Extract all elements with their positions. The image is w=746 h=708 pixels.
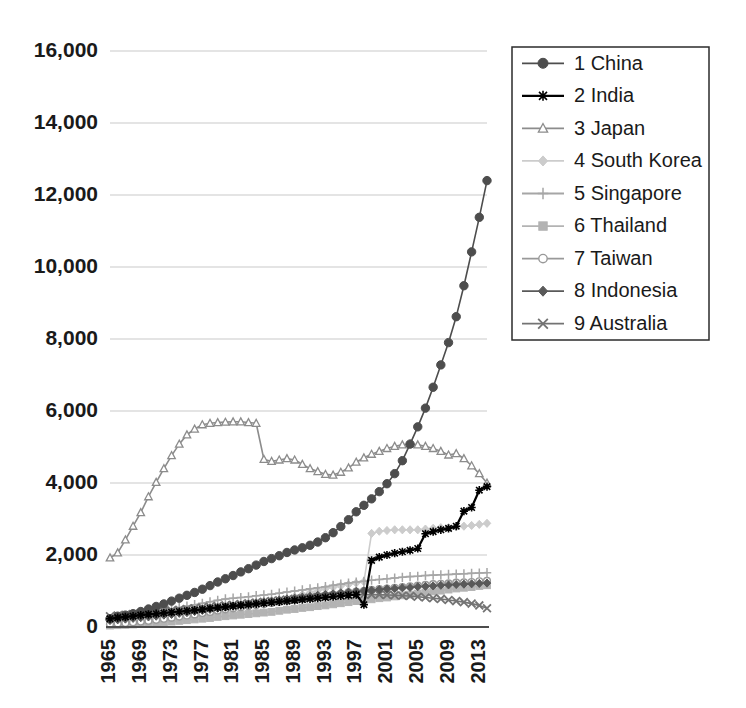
data-point-marker [452, 522, 460, 530]
data-point-marker [321, 534, 329, 542]
data-point-marker [160, 600, 168, 608]
data-point-marker [375, 575, 384, 584]
data-point-marker [314, 538, 322, 546]
data-point-marker [437, 526, 445, 534]
data-point-marker [406, 440, 414, 448]
data-point-marker [460, 455, 467, 462]
data-point-marker [214, 614, 221, 621]
data-point-marker [383, 480, 391, 488]
data-point-marker [152, 478, 159, 485]
data-point-marker [167, 608, 175, 616]
data-point-marker [414, 423, 422, 431]
data-point-marker [406, 526, 413, 534]
data-point-marker [437, 361, 445, 369]
data-point-marker [283, 455, 290, 462]
chart-legend: 1 China2 India3 Japan4 South Korea5 Sing… [512, 47, 709, 340]
x-axis-tick-label: 1973 [159, 639, 181, 684]
data-point-marker [344, 516, 352, 524]
data-point-marker [283, 597, 291, 605]
data-point-marker [175, 594, 183, 602]
data-point-marker [391, 526, 398, 534]
y-axis-tick-label: 10,000 [34, 254, 98, 277]
data-point-marker [352, 591, 360, 599]
data-point-marker [291, 596, 299, 604]
data-point-marker [368, 529, 375, 537]
data-point-marker [539, 254, 547, 262]
series-1-china [106, 176, 491, 623]
data-point-marker [214, 578, 222, 586]
data-point-marker [421, 571, 430, 580]
data-point-marker [160, 609, 168, 617]
data-point-marker [267, 554, 275, 562]
data-point-marker [444, 570, 453, 579]
data-point-marker [344, 578, 353, 587]
data-point-marker [306, 465, 313, 472]
data-point-marker [352, 458, 359, 465]
data-point-marker [483, 604, 491, 612]
data-point-marker [414, 544, 422, 552]
data-point-marker [191, 425, 198, 432]
y-axis-tick-label: 12,000 [34, 182, 98, 205]
legend-item-label: 6 Thailand [574, 214, 667, 236]
data-point-marker [121, 613, 129, 621]
data-point-marker [244, 564, 252, 572]
data-point-marker [298, 544, 306, 552]
data-point-marker [383, 526, 390, 534]
data-point-marker [137, 509, 144, 516]
data-point-marker [167, 597, 175, 605]
data-point-marker [539, 222, 547, 230]
data-point-marker [291, 606, 298, 613]
data-point-marker [329, 593, 337, 601]
data-point-marker [260, 455, 267, 462]
data-point-marker [190, 588, 198, 596]
data-point-marker [452, 569, 461, 578]
legend-item-label: 1 China [574, 52, 644, 74]
data-point-marker [538, 91, 548, 101]
data-point-marker [222, 613, 229, 620]
data-point-marker [468, 521, 475, 529]
data-series-group [106, 176, 492, 629]
data-point-marker [329, 528, 337, 536]
x-axis-tick-label: 1969 [128, 639, 150, 684]
data-point-marker [460, 522, 467, 530]
data-point-marker [237, 568, 245, 576]
data-point-marker [175, 607, 183, 615]
data-point-marker [144, 610, 152, 618]
data-point-marker [444, 338, 452, 346]
data-point-marker [452, 312, 460, 320]
data-point-marker [284, 606, 291, 613]
legend-item-label: 5 Singapore [574, 182, 682, 204]
data-point-marker [375, 553, 383, 561]
data-point-marker [337, 592, 345, 600]
x-axis-tick-label: 2005 [405, 639, 427, 684]
data-point-marker [268, 608, 275, 615]
data-point-marker [414, 572, 423, 581]
data-point-marker [252, 600, 260, 608]
data-point-marker [106, 615, 114, 623]
data-point-marker [468, 503, 476, 511]
x-axis-tick-label: 2009 [436, 639, 458, 684]
data-point-marker [321, 593, 329, 601]
data-point-marker [398, 548, 406, 556]
data-point-marker [253, 610, 260, 617]
data-point-marker [337, 600, 344, 607]
y-axis-tick-label: 6,000 [45, 398, 98, 421]
data-point-marker [421, 530, 429, 538]
data-point-marker [406, 546, 414, 554]
data-point-marker [414, 526, 421, 534]
x-axis-tick-label: 1985 [251, 639, 273, 684]
data-point-marker [191, 606, 199, 614]
y-axis-tick-label: 16,000 [34, 38, 98, 61]
series-line [110, 422, 487, 558]
data-point-marker [275, 598, 283, 606]
data-point-marker [483, 568, 492, 577]
gridlines [110, 51, 487, 555]
data-point-marker [391, 549, 399, 557]
data-point-marker [237, 611, 244, 618]
data-point-marker [483, 519, 490, 527]
series-3-japan [106, 418, 490, 561]
data-point-marker [460, 569, 469, 578]
data-point-marker [383, 551, 391, 559]
data-point-marker [390, 573, 399, 582]
data-point-marker [267, 598, 275, 606]
